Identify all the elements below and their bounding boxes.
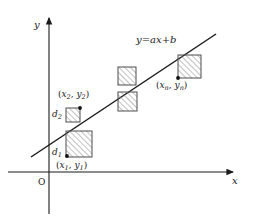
comma: ,: [169, 80, 172, 90]
y-subscript: n: [180, 84, 184, 92]
point-label-2: (x2, y2): [58, 90, 89, 99]
y-subscript: 2: [82, 93, 86, 101]
square-n: [178, 55, 201, 78]
x-subscript: n: [165, 84, 169, 92]
residual-squares: [66, 55, 201, 157]
d-symbol: d: [52, 147, 58, 157]
data-point-2: [78, 106, 82, 110]
x-subscript: 1: [65, 164, 69, 172]
y-symbol: y: [76, 89, 81, 99]
y-symbol: y: [175, 80, 180, 90]
paren-close: ): [84, 160, 88, 170]
x-subscript: 2: [67, 93, 71, 101]
data-point-1: [65, 154, 69, 158]
point-label-1: (x1, y1): [56, 161, 87, 170]
point-label-n: (xn, yn): [156, 81, 187, 90]
x-axis-label: x: [232, 176, 238, 186]
regression-figure: y x O y=ax+b (x2, y2) (x1, y1) (xn, yn) …: [0, 0, 254, 222]
square-2: [66, 108, 80, 122]
paren-close: ): [86, 89, 90, 99]
d-symbol: d: [52, 109, 58, 119]
square-4: [118, 67, 136, 85]
comma: ,: [71, 89, 74, 99]
line-equation: y=ax+b: [136, 35, 176, 45]
figure-canvas: [0, 0, 254, 222]
d-subscript: 2: [58, 113, 62, 121]
x-symbol: x: [62, 89, 67, 99]
distance-label-2: d2: [52, 110, 62, 119]
y-axis-label: y: [34, 20, 40, 30]
origin-label: O: [38, 178, 45, 187]
equation-intercept-b: b: [170, 34, 176, 45]
equation-plus: +: [162, 34, 170, 45]
paren-close: ): [184, 80, 188, 90]
distance-label-1: d1: [52, 148, 62, 157]
y-symbol: y: [74, 160, 79, 170]
y-subscript: 1: [80, 164, 84, 172]
x-symbol: x: [160, 80, 165, 90]
square-3: [118, 92, 137, 111]
d-subscript: 1: [58, 151, 62, 159]
comma: ,: [69, 160, 72, 170]
square-1: [66, 131, 92, 157]
x-symbol: x: [60, 160, 65, 170]
equation-equals: =: [142, 34, 150, 45]
